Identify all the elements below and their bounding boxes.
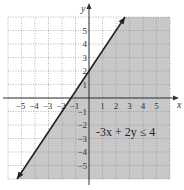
y-axis-label: y xyxy=(80,3,86,14)
svg-text:−1: −1 xyxy=(77,107,87,117)
svg-text:−4: −4 xyxy=(77,147,87,157)
svg-text:−3: −3 xyxy=(77,134,87,144)
svg-text:3: 3 xyxy=(83,53,88,63)
svg-text:−5: −5 xyxy=(77,161,87,171)
svg-text:4: 4 xyxy=(83,39,88,49)
svg-text:−2: −2 xyxy=(56,101,66,111)
svg-text:−3: −3 xyxy=(43,101,53,111)
svg-text:−2: −2 xyxy=(77,120,87,130)
inequality-label: -3x + 2y ≤ 4 xyxy=(96,125,155,139)
svg-text:5: 5 xyxy=(154,101,159,111)
svg-text:4: 4 xyxy=(141,101,146,111)
inequality-graph: −5−4−3−2−11234554321−1−2−3−4−5 -3x + 2y … xyxy=(0,0,184,190)
svg-text:2: 2 xyxy=(114,101,119,111)
svg-text:5: 5 xyxy=(83,26,88,36)
svg-text:3: 3 xyxy=(127,101,132,111)
svg-text:−5: −5 xyxy=(16,101,26,111)
svg-text:−4: −4 xyxy=(29,101,39,111)
x-axis-label: x xyxy=(176,99,182,110)
svg-text:1: 1 xyxy=(100,101,105,111)
